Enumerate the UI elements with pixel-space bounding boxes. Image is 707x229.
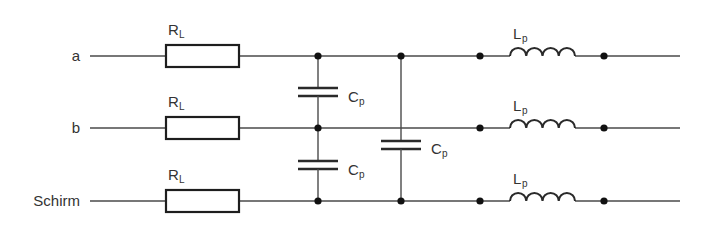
line-label-a: a (72, 47, 81, 64)
inductor-a: L p (510, 25, 575, 56)
junction-dot (476, 124, 483, 131)
junction-dot (397, 197, 404, 204)
junction-dot (314, 52, 321, 59)
capacitor-a-schirm-subscript: p (442, 148, 448, 159)
resistor-schirm-symbol: R (168, 166, 179, 183)
resistor-schirm-subscript: L (179, 174, 185, 185)
resistor-a-subscript: L (179, 29, 185, 40)
resistor-a: R L (166, 21, 239, 67)
capacitor-a-schirm-symbol: C (431, 140, 442, 157)
junction-dot (600, 52, 607, 59)
resistor-b-symbol: R (168, 93, 179, 110)
inductor-a-subscript: p (522, 33, 528, 44)
resistor-b: R L (166, 93, 239, 139)
inductor-b-symbol: L (513, 97, 521, 114)
inductor-schirm-symbol: L (513, 170, 521, 187)
junction-dot (397, 52, 404, 59)
line-label-schirm: Schirm (33, 192, 80, 209)
junction-dot (314, 197, 321, 204)
junction-dot (600, 197, 607, 204)
capacitor-b-schirm: C p (298, 128, 365, 201)
inductor-b: L p (510, 97, 575, 128)
junction-dot (600, 124, 607, 131)
inductor-schirm-subscript: p (522, 178, 528, 189)
inductor-b-subscript: p (522, 105, 528, 116)
capacitor-b-schirm-symbol: C (348, 161, 359, 178)
inductor-a-symbol: L (513, 25, 521, 42)
junction-dot (314, 124, 321, 131)
line-label-b: b (72, 119, 80, 136)
circuit-diagram: a b Schirm R L R L R L C p (0, 0, 707, 229)
resistor-a-symbol: R (168, 21, 179, 38)
resistor-schirm: R L (166, 166, 239, 212)
capacitor-a-b-symbol: C (348, 88, 359, 105)
capacitor-b-schirm-subscript: p (359, 169, 365, 180)
junction-dot (476, 52, 483, 59)
junction-dot (476, 197, 483, 204)
inductor-schirm: L p (510, 170, 575, 201)
resistor-b-subscript: L (179, 101, 185, 112)
capacitor-a-b-subscript: p (359, 96, 365, 107)
capacitor-a-b: C p (298, 56, 365, 128)
